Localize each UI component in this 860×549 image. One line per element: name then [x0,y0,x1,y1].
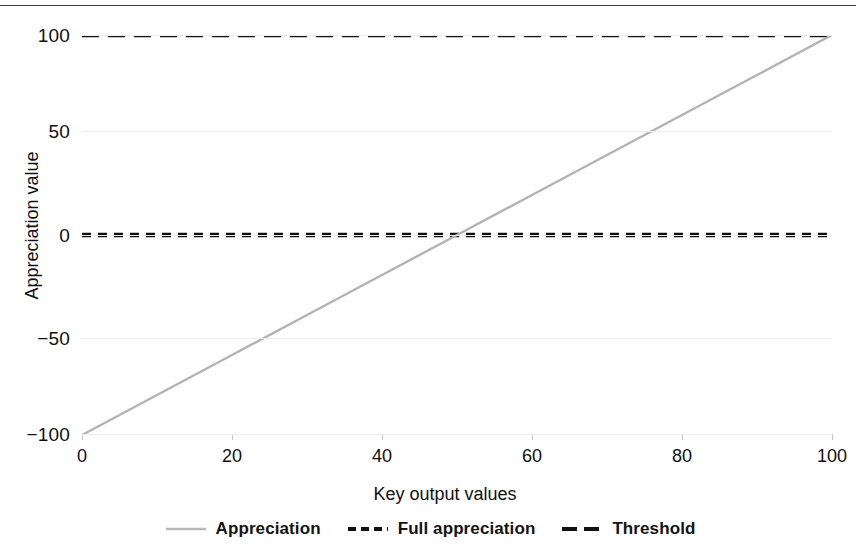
solid-line-marker-icon [165,522,207,536]
y-tick-label-0: 0 [0,226,70,245]
x-axis-title: Key output values [0,484,860,505]
x-tick-label-100: 100 [802,447,860,465]
y-tick-label-50: 50 [0,122,70,141]
gridline-neg50 [82,338,832,339]
top-border-rule [0,5,856,6]
x-tick-label-20: 20 [202,447,262,465]
x-tick-label-80: 80 [652,447,712,465]
x-tick-label-0: 0 [52,447,112,465]
legend-label-full-appreciation: Full appreciation [398,519,536,539]
legend-label-appreciation: Appreciation [216,519,321,539]
gridline-neg100 [82,434,832,435]
x-tick-label-60: 60 [502,447,562,465]
chart-legend: Appreciation Full appreciation Threshold [0,519,860,539]
chart-figure: Appreciation value 100 50 0 −50 −100 0 2… [0,0,860,549]
y-tick-label-100: 100 [0,26,70,45]
y-tick-label-neg50: −50 [0,329,70,348]
plot-area [82,35,832,434]
x-axis-title-text: Key output values [373,484,516,505]
legend-item-threshold[interactable]: Threshold [561,519,695,539]
long-dashed-line-marker-icon [561,522,603,536]
y-tick-label-neg100: −100 [0,425,70,444]
legend-item-appreciation[interactable]: Appreciation [165,519,321,539]
legend-label-threshold: Threshold [612,519,695,539]
dashed-line-marker-icon [347,522,389,536]
x-tick-label-40: 40 [352,447,412,465]
gridline-0 [82,235,832,236]
x-tick-mark-100 [832,434,833,440]
gridline-50 [82,131,832,132]
gridline-100 [82,35,832,36]
legend-item-full-appreciation[interactable]: Full appreciation [347,519,536,539]
